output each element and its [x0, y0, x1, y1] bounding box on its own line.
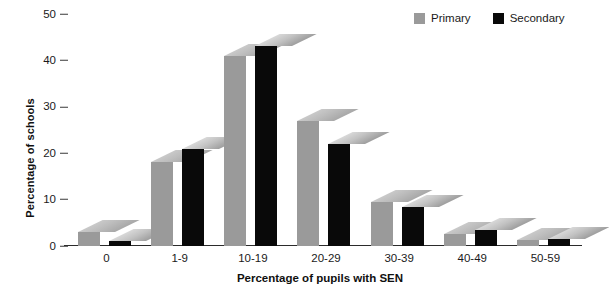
y-axis-tick-label: 0 — [50, 240, 56, 252]
y-axis-tick-label: 50 — [43, 8, 56, 20]
y-axis-title: Percentage of schools — [24, 48, 36, 268]
bar-primary — [297, 121, 319, 246]
y-axis-tick-label: 30 — [43, 101, 56, 113]
bar-body — [109, 241, 131, 246]
x-axis-title: Percentage of pupils with SEN — [70, 272, 570, 284]
bar-body — [297, 121, 319, 246]
x-axis-tick-label: 50-59 — [509, 252, 582, 264]
y-axis-tick-label: 20 — [43, 147, 56, 159]
bar-group — [363, 14, 436, 246]
bar-group — [70, 14, 143, 246]
bar-top-face — [297, 109, 359, 121]
y-axis-tick-mark — [60, 246, 68, 247]
x-axis-tick-label: 40-49 — [436, 252, 509, 264]
bar-body — [182, 149, 204, 246]
bar-body — [371, 202, 393, 246]
x-axis-tick-label: 1-9 — [143, 252, 216, 264]
bar-secondary — [548, 239, 570, 246]
y-axis-tick-label: 40 — [43, 55, 56, 67]
bar-primary — [151, 162, 173, 246]
bar-group — [216, 14, 289, 246]
bar-primary — [78, 232, 100, 246]
y-axis-tick-mark — [60, 60, 68, 61]
y-axis-tick-mark — [60, 14, 68, 15]
y-axis-tick-mark — [60, 199, 68, 200]
bar-body — [402, 207, 424, 246]
bar-body — [255, 46, 277, 246]
y-axis-tick: 20 — [43, 147, 70, 159]
bar-group — [289, 14, 362, 246]
bar-body — [151, 162, 173, 246]
bar-body — [517, 240, 539, 246]
bar-body — [224, 56, 246, 246]
y-axis-tick-label: 10 — [43, 194, 56, 206]
bar-primary — [517, 240, 539, 246]
y-axis-tick: 30 — [43, 101, 70, 113]
bar-primary — [371, 202, 393, 246]
x-axis-tick-label: 0 — [70, 252, 143, 264]
bar-secondary — [182, 149, 204, 246]
bar-secondary — [255, 46, 277, 246]
bar-body — [78, 232, 100, 246]
bar-secondary — [402, 207, 424, 246]
bar-secondary — [475, 230, 497, 246]
y-axis-tick-mark — [60, 153, 68, 154]
bar-secondary — [328, 144, 350, 246]
x-axis-tick-label: 20-29 — [289, 252, 362, 264]
y-axis-tick: 50 — [43, 8, 70, 20]
x-axis-tick-label: 30-39 — [363, 252, 436, 264]
plot-area: 01020304050 — [70, 14, 582, 246]
bar-group — [143, 14, 216, 246]
bar-body — [475, 230, 497, 246]
y-axis-tick: 0 — [50, 240, 70, 252]
bar-secondary — [109, 241, 131, 246]
bar-group — [436, 14, 509, 246]
y-axis-tick-mark — [60, 106, 68, 107]
x-axis-tick-label: 10-19 — [216, 252, 289, 264]
y-axis-tick: 10 — [43, 194, 70, 206]
bar-primary — [444, 234, 466, 246]
bar-body — [444, 234, 466, 246]
bar-body — [328, 144, 350, 246]
bar-primary — [224, 56, 246, 246]
y-axis-tick: 40 — [43, 55, 70, 67]
bar-group — [509, 14, 582, 246]
bar-body — [548, 239, 570, 246]
